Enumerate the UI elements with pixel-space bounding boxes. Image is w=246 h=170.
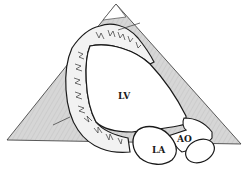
- ao-label: AO: [176, 134, 192, 144]
- echo-diagram: LV AO LA: [0, 0, 246, 170]
- lv-label: LV: [118, 91, 131, 101]
- la-label: LA: [152, 145, 166, 155]
